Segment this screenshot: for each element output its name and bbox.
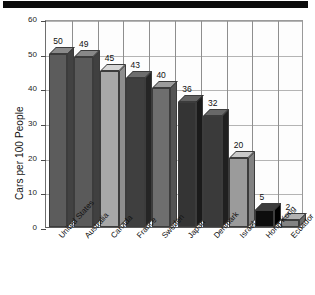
y-gridline — [46, 21, 302, 22]
y-axis-tick — [41, 229, 46, 230]
chart-screenshot: 0102030405060Cars per 100 People50United… — [0, 0, 315, 295]
y-axis-tick — [41, 125, 46, 126]
bar-side-face — [67, 47, 74, 227]
bar-value-label: 36 — [182, 85, 191, 94]
y-axis-tick — [41, 90, 46, 91]
bar-front-face — [152, 88, 171, 227]
bar-value-label: 49 — [79, 40, 88, 49]
bar-value-label: 32 — [208, 99, 217, 108]
bar-value-label: 50 — [53, 37, 62, 46]
y-axis-tick — [41, 160, 46, 161]
x-gridline — [278, 21, 279, 227]
y-axis-tick-label: 0 — [15, 224, 37, 232]
bar-front-face — [203, 116, 222, 227]
bar-front-face — [100, 71, 119, 227]
bar-front-face — [126, 78, 145, 227]
bar — [100, 71, 119, 227]
bar-value-label: 5 — [260, 193, 265, 202]
bar — [178, 102, 197, 227]
bar-value-label: 45 — [105, 54, 114, 63]
y-axis-tick-label: 60 — [15, 16, 37, 24]
bar — [203, 116, 222, 227]
bar-front-face — [178, 102, 197, 227]
bar — [152, 88, 171, 227]
bar-side-face — [222, 109, 229, 227]
y-axis-tick — [41, 21, 46, 22]
bar-side-face — [145, 71, 152, 227]
y-axis-tick — [41, 56, 46, 57]
bar — [126, 78, 145, 227]
y-axis-title: Cars per 100 People — [14, 50, 25, 200]
bar-value-label: 2 — [285, 203, 290, 212]
bar-front-face — [49, 54, 68, 227]
bar-value-label: 40 — [156, 71, 165, 80]
top-black-banner — [3, 1, 308, 8]
bar — [49, 54, 68, 227]
bar-value-label: 43 — [131, 61, 140, 70]
bar-side-face — [93, 50, 100, 227]
bar-side-face — [170, 81, 177, 227]
bar-value-label: 20 — [234, 141, 243, 150]
bar-side-face — [119, 64, 126, 227]
bar-side-face — [248, 151, 255, 227]
y-axis-tick — [41, 194, 46, 195]
